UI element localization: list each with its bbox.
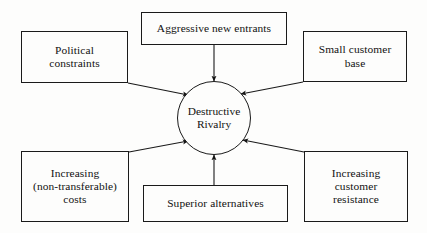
- hub-destructive-rivalry-label: Destructive Rivalry: [188, 105, 241, 132]
- arrow-increasing-costs-to-hub: [129, 141, 188, 152]
- node-superior-alternatives: Superior alternatives: [143, 185, 288, 222]
- node-political-constraints: Political constraints: [21, 31, 128, 83]
- node-increasing-non-transferable-costs: Increasing (non-transferable) costs: [21, 151, 129, 222]
- arrow-increasing-customer-resistance-to-hub: [243, 140, 304, 152]
- node-aggressive-new-entrants-label: Aggressive new entrants: [154, 22, 274, 35]
- node-increasing-customer-resistance: Increasing customer resistance: [304, 151, 408, 222]
- node-increasing-non-transferable-costs-label: Increasing (non-transferable) costs: [30, 167, 120, 207]
- node-small-customer-base-label: Small customer base: [316, 43, 395, 69]
- node-political-constraints-label: Political constraints: [46, 44, 102, 70]
- node-superior-alternatives-label: Superior alternatives: [164, 197, 267, 210]
- node-increasing-customer-resistance-label: Increasing customer resistance: [329, 167, 383, 207]
- arrow-small-customer-base-to-hub: [241, 82, 303, 94]
- node-aggressive-new-entrants: Aggressive new entrants: [141, 12, 287, 45]
- destructive-rivalry-diagram: Political constraints Aggressive new ent…: [0, 0, 427, 233]
- hub-destructive-rivalry: Destructive Rivalry: [177, 81, 251, 155]
- node-small-customer-base: Small customer base: [303, 31, 407, 82]
- arrow-political-constraints-to-hub: [128, 83, 188, 95]
